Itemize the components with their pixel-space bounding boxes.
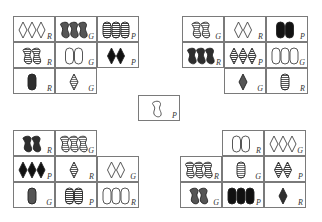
card[interactable]: G: [266, 42, 308, 68]
diamond-open-symbol-icon: [244, 22, 252, 38]
card-color-label: P: [131, 33, 136, 41]
card[interactable]: R: [13, 130, 55, 156]
squiggle-solid-symbol-icon: [70, 22, 79, 38]
diamond-striped-symbol-icon: [248, 48, 256, 64]
oval-open-symbol-icon: [281, 48, 289, 64]
card-color-label: G: [213, 199, 219, 207]
diamond-open-symbol-icon: [28, 22, 36, 38]
oval-open-symbol-icon: [121, 188, 129, 204]
card-color-label: R: [89, 173, 94, 181]
oval-open-symbol-icon: [242, 136, 250, 152]
diamond-open-symbol-icon: [19, 22, 27, 38]
card[interactable]: G: [55, 16, 97, 42]
card[interactable]: R: [264, 182, 306, 208]
card[interactable]: R: [266, 68, 308, 94]
card[interactable]: P: [138, 95, 180, 121]
card-color-label: G: [299, 59, 305, 67]
oval-solid-symbol-icon: [246, 188, 254, 204]
card[interactable]: G: [13, 182, 55, 208]
diamond-striped-symbol-icon: [70, 162, 78, 178]
card[interactable]: R: [182, 42, 224, 68]
card-color-label: R: [47, 59, 52, 67]
card-color-label: G: [88, 59, 94, 67]
card-color-label: P: [47, 173, 52, 181]
card-color-label: G: [215, 33, 221, 41]
oval-open-symbol-icon: [290, 48, 298, 64]
squiggle-solid-symbol-icon: [199, 188, 208, 204]
card-color-label: P: [300, 33, 305, 41]
diamond-solid-symbol-icon: [239, 74, 247, 90]
card[interactable]: P: [13, 156, 55, 182]
card[interactable]: P: [266, 16, 308, 42]
oval-striped-symbol-icon: [121, 22, 129, 38]
card[interactable]: R: [13, 42, 55, 68]
oval-solid-symbol-icon: [28, 74, 36, 90]
card[interactable]: G: [55, 42, 97, 68]
card[interactable]: G: [97, 156, 139, 182]
diamond-open-symbol-icon: [235, 22, 243, 38]
card[interactable]: R: [55, 156, 97, 182]
diamond-striped-symbol-icon: [284, 162, 292, 178]
card-color-label: R: [216, 59, 221, 67]
squiggle-striped-symbol-icon: [186, 162, 195, 178]
card-color-label: G: [255, 173, 261, 181]
squiggle-solid-symbol-icon: [32, 136, 41, 152]
card-color-label: G: [257, 85, 263, 93]
card-color-label: R: [298, 199, 303, 207]
card[interactable]: P: [224, 42, 266, 68]
card[interactable]: G: [182, 16, 224, 42]
squiggle-solid-symbol-icon: [206, 48, 215, 64]
card[interactable]: P: [264, 156, 306, 182]
card-color-label: P: [256, 199, 261, 207]
card-color-label: R: [47, 85, 52, 93]
squiggle-striped-symbol-icon: [70, 136, 79, 152]
card[interactable]: G: [264, 130, 306, 156]
oval-solid-symbol-icon: [28, 188, 36, 204]
card[interactable]: G: [222, 156, 264, 182]
diamond-open-symbol-icon: [288, 136, 296, 152]
card[interactable]: G: [180, 182, 222, 208]
oval-solid-symbol-icon: [277, 22, 285, 38]
diamond-striped-symbol-icon: [275, 162, 283, 178]
card-color-label: P: [258, 59, 263, 67]
card[interactable]: R: [224, 16, 266, 42]
diamond-open-symbol-icon: [279, 136, 287, 152]
diamond-solid-symbol-icon: [37, 162, 45, 178]
card[interactable]: P: [97, 16, 139, 42]
card[interactable]: G: [55, 68, 97, 94]
card-color-label: R: [258, 33, 263, 41]
card[interactable]: P: [222, 182, 264, 208]
card-color-label: G: [88, 33, 94, 41]
oval-striped-symbol-icon: [281, 74, 289, 90]
card-color-label: G: [130, 173, 136, 181]
card-color-label: G: [88, 85, 94, 93]
card-color-label: G: [46, 199, 52, 207]
diamond-open-symbol-icon: [117, 162, 125, 178]
oval-striped-symbol-icon: [66, 188, 74, 204]
card[interactable]: G: [224, 68, 266, 94]
card[interactable]: R: [97, 182, 139, 208]
oval-open-symbol-icon: [75, 48, 83, 64]
card-color-label: G: [88, 147, 94, 155]
oval-striped-symbol-icon: [75, 188, 83, 204]
squiggle-striped-symbol-icon: [201, 22, 210, 38]
diamond-solid-symbol-icon: [28, 162, 36, 178]
card[interactable]: R: [13, 68, 55, 94]
squiggle-solid-symbol-icon: [79, 22, 88, 38]
oval-striped-symbol-icon: [237, 162, 245, 178]
diamond-solid-symbol-icon: [117, 48, 125, 64]
card[interactable]: R: [222, 130, 264, 156]
card[interactable]: R: [180, 156, 222, 182]
card[interactable]: R: [13, 16, 55, 42]
card-color-label: G: [297, 147, 303, 155]
card-color-label: P: [131, 59, 136, 67]
diamond-open-symbol-icon: [270, 136, 278, 152]
squiggle-striped-symbol-icon: [204, 162, 213, 178]
card-color-label: R: [131, 199, 136, 207]
diamond-solid-symbol-icon: [19, 162, 27, 178]
card[interactable]: P: [97, 42, 139, 68]
oval-open-symbol-icon: [272, 48, 280, 64]
card[interactable]: P: [55, 182, 97, 208]
card-color-label: R: [47, 33, 52, 41]
card[interactable]: G: [55, 130, 97, 156]
